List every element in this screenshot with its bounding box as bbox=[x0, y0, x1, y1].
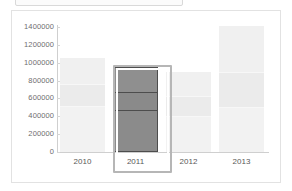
bar-segment[interactable] bbox=[219, 72, 264, 109]
bar-segment[interactable] bbox=[166, 72, 211, 96]
x-axis-tick-label: 2010 bbox=[55, 157, 111, 167]
bar[interactable] bbox=[219, 26, 264, 152]
bar-segment[interactable] bbox=[219, 26, 264, 72]
x-axis-tick-label: 2012 bbox=[161, 157, 217, 167]
bar-segment[interactable] bbox=[219, 108, 264, 152]
y-axis-tick-label: 600000 bbox=[8, 94, 54, 102]
y-axis-tick-label: 400000 bbox=[8, 112, 54, 120]
chart-panel: 1400000120000010000008000006000004000002… bbox=[11, 10, 281, 183]
cropped-panel-box[interactable] bbox=[15, 0, 183, 6]
x-axis-tick-label: 2013 bbox=[214, 157, 270, 167]
cropped-toolbar-strip bbox=[0, 0, 292, 9]
x-axis-tick-label: 2011 bbox=[108, 157, 164, 167]
bar-segment[interactable] bbox=[166, 96, 211, 117]
y-axis-tick-label: 0 bbox=[8, 148, 54, 156]
bar-segment[interactable] bbox=[60, 84, 105, 108]
plot-area: 1400000120000010000008000006000004000002… bbox=[12, 11, 280, 182]
y-axis-tick-label: 200000 bbox=[8, 130, 54, 138]
y-axis-tick-label: 1000000 bbox=[8, 59, 54, 67]
y-axis-tick-label: 1400000 bbox=[8, 23, 54, 31]
bar[interactable] bbox=[166, 72, 211, 152]
y-axis-tick-label: 1200000 bbox=[8, 41, 54, 49]
y-axis-tick-label: 800000 bbox=[8, 77, 54, 85]
bar[interactable] bbox=[60, 58, 105, 152]
bar-segment[interactable] bbox=[166, 117, 211, 152]
bar-segment[interactable] bbox=[60, 107, 105, 152]
bar-segment[interactable] bbox=[60, 58, 105, 83]
